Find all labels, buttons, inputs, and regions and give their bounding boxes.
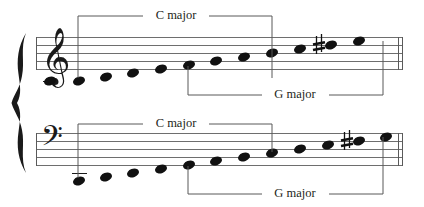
bracket-treble-g-major: G major: [188, 41, 383, 101]
notehead: [352, 135, 367, 147]
notehead: [126, 167, 141, 179]
music-score-figure: 𝄞: [0, 0, 424, 207]
bracket-label-g-major-bass: G major: [274, 186, 316, 200]
notehead: [126, 67, 141, 79]
treble-staff-lines: [36, 38, 403, 70]
notehead: [237, 151, 252, 163]
bracket-treble-c-major: C major: [78, 8, 272, 78]
notehead: [154, 163, 169, 175]
treble-system: 𝄞: [36, 8, 403, 101]
notehead: [154, 63, 169, 75]
treble-clef-icon: 𝄞: [41, 27, 71, 88]
bracket-label-c-major-treble: C major: [156, 8, 197, 22]
bracket-label-c-major-bass: C major: [156, 116, 197, 130]
score-canvas: 𝄞: [0, 0, 424, 207]
notehead: [72, 175, 87, 187]
bracket-label-g-major-treble: G major: [274, 87, 316, 101]
svg-text:𝄢: 𝄢: [41, 119, 63, 159]
bass-clef-icon: 𝄢: [41, 119, 63, 159]
notehead: [99, 171, 114, 183]
bracket-bass-g-major: G major: [188, 137, 383, 200]
notehead: [293, 143, 308, 155]
notehead: [324, 39, 339, 51]
notehead: [209, 55, 224, 67]
notehead: [99, 71, 114, 83]
notehead: [72, 75, 87, 87]
bracket-bass-c-major: C major: [78, 116, 272, 178]
svg-text:𝄞: 𝄞: [41, 27, 71, 88]
bass-system: 𝄢: [36, 116, 403, 200]
system-brace: [12, 33, 27, 173]
notehead: [182, 159, 197, 171]
